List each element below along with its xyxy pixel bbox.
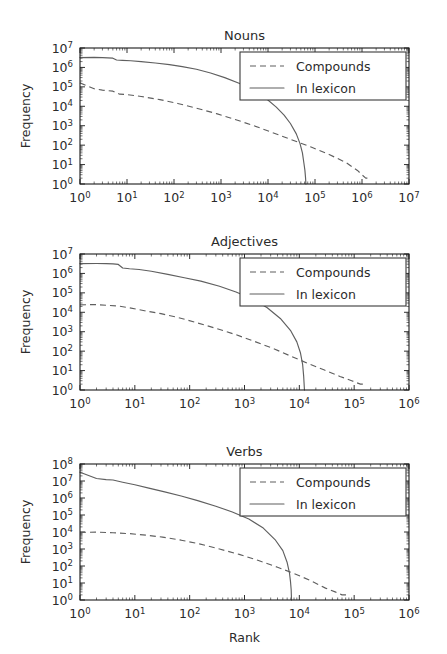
x-tick-label: 107 xyxy=(398,190,419,206)
x-tick-label: 106 xyxy=(398,606,419,622)
y-tick-label: 102 xyxy=(52,137,73,153)
y-tick-label: 101 xyxy=(52,575,73,591)
x-tick-label: 103 xyxy=(234,396,255,412)
x-tick-label: 105 xyxy=(344,396,365,412)
figure-container: Nouns10010110210310410510610710010110210… xyxy=(0,0,447,654)
legend-box xyxy=(240,52,406,100)
y-tick-label: 108 xyxy=(52,456,73,472)
legend-label: Compounds xyxy=(296,59,370,74)
y-axis-label: Frequency xyxy=(18,499,33,564)
y-axis-label: Frequency xyxy=(18,83,33,148)
x-tick-label: 104 xyxy=(289,396,310,412)
series-line-compounds xyxy=(80,305,365,385)
x-tick-label: 104 xyxy=(257,190,278,206)
x-tick-label: 106 xyxy=(351,190,372,206)
y-tick-label: 100 xyxy=(52,382,73,398)
y-tick-label: 102 xyxy=(52,343,73,359)
legend-label: In lexicon xyxy=(296,287,356,302)
panel-title: Nouns xyxy=(224,28,265,43)
legend-label: Compounds xyxy=(296,265,370,280)
y-tick-label: 103 xyxy=(52,118,73,134)
panel-title: Adjectives xyxy=(211,234,278,249)
y-tick-label: 106 xyxy=(52,59,73,75)
y-tick-label: 104 xyxy=(52,98,73,114)
plot-frame xyxy=(80,464,409,600)
x-tick-label: 103 xyxy=(234,606,255,622)
x-tick-label: 102 xyxy=(179,396,200,412)
panel-title: Verbs xyxy=(226,444,262,459)
y-tick-label: 105 xyxy=(52,79,73,95)
y-tick-label: 100 xyxy=(52,176,73,192)
x-tick-label: 102 xyxy=(163,190,184,206)
y-tick-label: 101 xyxy=(52,363,73,379)
y-tick-label: 107 xyxy=(52,246,73,262)
y-tick-label: 100 xyxy=(52,592,73,608)
legend-box xyxy=(240,258,406,306)
y-tick-label: 105 xyxy=(52,507,73,523)
x-axis-label: Rank xyxy=(229,630,261,645)
x-tick-label: 101 xyxy=(124,396,145,412)
y-tick-label: 104 xyxy=(52,304,73,320)
legend-label: Compounds xyxy=(296,475,370,490)
x-tick-label: 106 xyxy=(398,396,419,412)
y-axis-label: Frequency xyxy=(18,289,33,354)
x-tick-label: 100 xyxy=(69,606,90,622)
y-tick-label: 106 xyxy=(52,265,73,281)
series-line-compounds xyxy=(80,532,347,595)
y-tick-label: 103 xyxy=(52,324,73,340)
series-line-in-lexicon xyxy=(80,263,304,390)
x-tick-label: 101 xyxy=(124,606,145,622)
y-tick-label: 107 xyxy=(52,40,73,56)
y-tick-label: 104 xyxy=(52,524,73,540)
x-tick-label: 102 xyxy=(179,606,200,622)
legend-box xyxy=(240,468,406,516)
x-tick-label: 103 xyxy=(210,190,231,206)
legend-label: In lexicon xyxy=(296,497,356,512)
y-tick-label: 103 xyxy=(52,541,73,557)
series-line-in-lexicon xyxy=(80,57,306,184)
series-line-in-lexicon xyxy=(80,472,292,600)
y-tick-label: 107 xyxy=(52,473,73,489)
plot-frame xyxy=(80,48,409,184)
x-tick-label: 100 xyxy=(69,190,90,206)
x-tick-label: 104 xyxy=(289,606,310,622)
series-line-compounds xyxy=(80,83,369,178)
y-tick-label: 102 xyxy=(52,558,73,574)
x-tick-label: 105 xyxy=(344,606,365,622)
x-tick-label: 100 xyxy=(69,396,90,412)
x-tick-label: 101 xyxy=(116,190,137,206)
legend-label: In lexicon xyxy=(296,81,356,96)
y-tick-label: 101 xyxy=(52,157,73,173)
x-tick-label: 105 xyxy=(304,190,325,206)
plot-frame xyxy=(80,254,409,390)
y-tick-label: 106 xyxy=(52,490,73,506)
y-tick-label: 105 xyxy=(52,285,73,301)
